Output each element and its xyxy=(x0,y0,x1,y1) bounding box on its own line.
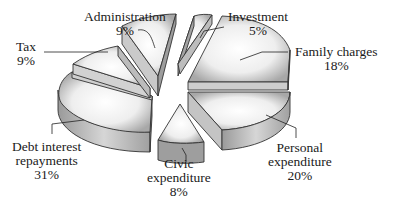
label-investment: Investment5% xyxy=(228,10,288,38)
label-civic-expenditure: Civicexpenditure8% xyxy=(147,157,211,199)
label-administration: Administration9% xyxy=(84,10,166,38)
label-debt-interest: Debt interestrepayments31% xyxy=(12,140,81,182)
label-personal-expenditure: Personalexpenditure20% xyxy=(268,141,332,183)
label-family-charges: Family charges18% xyxy=(295,45,378,73)
label-tax: Tax9% xyxy=(16,40,36,68)
